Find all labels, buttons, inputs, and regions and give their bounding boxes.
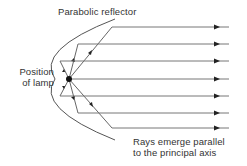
caption-line2: to the principal axis: [133, 147, 225, 158]
lamp-label-line1: Position: [2, 66, 54, 77]
parallel-arrowheads: [214, 25, 220, 131]
lamp-label-line2: of lamp: [2, 77, 54, 88]
reflector-label: Parabolic reflector: [58, 6, 136, 17]
caption-line1: Rays emerge parallel: [133, 136, 225, 147]
arrow-right-icon: [214, 111, 220, 116]
arrow-right-icon: [214, 59, 220, 64]
lamp-label: Position of lamp: [2, 66, 54, 88]
parallel-rays: [60, 27, 229, 128]
arrow-right-icon: [214, 25, 220, 30]
caption-label: Rays emerge parallel to the principal ax…: [133, 136, 225, 158]
arrow-right-icon: [214, 94, 220, 99]
arrow-right-icon: [214, 126, 220, 131]
lamp-icon: [66, 76, 72, 82]
arrow-right-icon: [214, 42, 220, 47]
arrow-icon: [88, 50, 92, 55]
arrow-right-icon: [214, 77, 220, 82]
